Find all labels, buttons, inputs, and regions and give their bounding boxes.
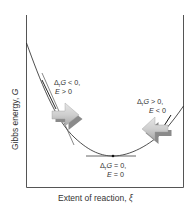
x-axis-label: Extent of reaction, ξ bbox=[58, 193, 134, 203]
minimum-annotation-line2: E = 0 bbox=[107, 170, 124, 179]
minimum-point bbox=[112, 155, 115, 158]
gibbs-energy-diagram: ΔrG < 0, E > 0 ΔrG > 0, E < 0 ΔrG = 0, E… bbox=[0, 0, 195, 205]
right-annotation-line2: E < 0 bbox=[149, 106, 166, 115]
arrow-right-icon bbox=[52, 103, 83, 130]
y-axis-label: Gibbs energy, G bbox=[10, 88, 20, 150]
left-annotation-line2: E > 0 bbox=[55, 87, 72, 96]
